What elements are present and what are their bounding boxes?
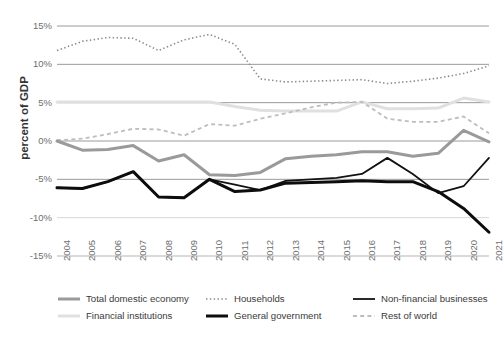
legend-label: Rest of world <box>381 310 437 321</box>
legend-item-total-domestic-economy[interactable]: Total domestic economy <box>58 293 189 304</box>
legend-item-households[interactable]: Households <box>206 293 285 304</box>
legend-swatch-icon <box>58 294 80 304</box>
legend-swatch-icon <box>353 294 375 304</box>
legend-item-non-financial-businesses[interactable]: Non-financial businesses <box>353 293 488 304</box>
x-axis-tick: 2008 <box>163 240 174 261</box>
x-axis-tick: 2010 <box>213 240 224 261</box>
x-axis-tick: 2021 <box>493 240 504 261</box>
x-axis-tick: 2020 <box>468 240 479 261</box>
x-axis-tick: 2011 <box>239 241 250 261</box>
x-axis-tick: 2014 <box>315 240 326 261</box>
legend-swatch-icon <box>353 311 375 321</box>
x-axis-tick: 2018 <box>417 240 428 261</box>
legend-swatch-icon <box>206 294 228 304</box>
x-axis-tick: 2016 <box>366 240 377 261</box>
legend-label: Total domestic economy <box>86 293 189 304</box>
chart-legend: Total domestic economyFinancial institut… <box>58 292 496 338</box>
x-axis-tick: 2007 <box>137 240 148 261</box>
x-axis-tick: 2009 <box>188 240 199 261</box>
x-axis-tick: 2019 <box>442 240 453 261</box>
legend-item-financial-institutions[interactable]: Financial institutions <box>58 310 172 321</box>
x-axis-tick: 2012 <box>264 240 275 261</box>
legend-label: General government <box>234 310 321 321</box>
legend-item-rest-of-world[interactable]: Rest of world <box>353 310 437 321</box>
series-line-households <box>57 34 489 83</box>
x-axis-tick: 2015 <box>341 240 352 261</box>
x-axis-tick: 2017 <box>391 240 402 261</box>
legend-swatch-icon <box>206 311 228 321</box>
legend-item-general-government[interactable]: General government <box>206 310 321 321</box>
legend-label: Households <box>234 293 285 304</box>
series-line-general-government <box>57 172 489 233</box>
legend-label: Non-financial businesses <box>381 293 488 304</box>
x-axis-tick: 2005 <box>86 240 97 261</box>
x-axis-tick: 2013 <box>290 240 301 261</box>
x-axis-tick: 2004 <box>61 240 72 261</box>
series-line-financial-institutions <box>57 98 489 111</box>
legend-swatch-icon <box>58 311 80 321</box>
x-axis-tick: 2006 <box>112 240 123 261</box>
legend-label: Financial institutions <box>86 310 172 321</box>
series-line-total-domestic-economy <box>57 130 489 175</box>
